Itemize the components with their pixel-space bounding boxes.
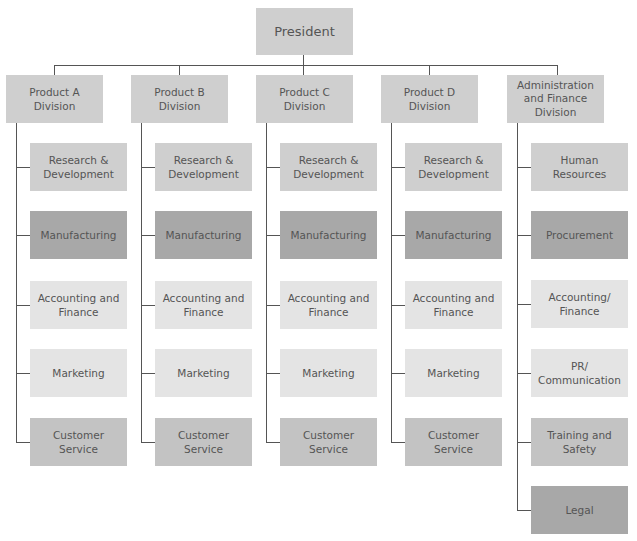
department-box: Legal <box>531 486 628 534</box>
department-box: Accounting and Finance <box>405 281 502 329</box>
division-label: Product A Division <box>29 85 79 113</box>
department-label: Customer Service <box>283 428 374 456</box>
department-label: Accounting and Finance <box>288 291 370 319</box>
department-box: Human Resources <box>531 143 628 191</box>
department-box: Training and Safety <box>531 418 628 466</box>
department-box: Manufacturing <box>280 211 377 259</box>
department-box: Accounting and Finance <box>30 281 127 329</box>
department-box: Research & Development <box>155 143 252 191</box>
division-trunk-line <box>391 123 392 442</box>
department-box: Marketing <box>405 349 502 397</box>
department-box: Manufacturing <box>405 211 502 259</box>
department-box: Accounting and Finance <box>280 281 377 329</box>
department-label: Manufacturing <box>165 228 241 242</box>
division-trunk-line <box>266 123 267 442</box>
division-label: Product D Division <box>404 85 455 113</box>
president-box: President <box>256 8 353 55</box>
department-box: Research & Development <box>280 143 377 191</box>
division-trunk-line <box>141 123 142 442</box>
department-label: Training and Safety <box>547 428 612 456</box>
department-box: Customer Service <box>405 418 502 466</box>
division-trunk-line <box>16 123 17 442</box>
division-box: Product C Division <box>256 75 353 123</box>
department-box: Research & Development <box>405 143 502 191</box>
department-box: Marketing <box>280 349 377 397</box>
department-label: Accounting and Finance <box>163 291 245 319</box>
division-box: Product D Division <box>381 75 478 123</box>
division-label: Product C Division <box>279 85 330 113</box>
department-box: Research & Development <box>30 143 127 191</box>
department-label: Research & Development <box>418 153 489 181</box>
department-label: Marketing <box>52 366 104 380</box>
department-box: Accounting and Finance <box>155 281 252 329</box>
department-label: Customer Service <box>33 428 124 456</box>
department-box: Procurement <box>531 211 628 259</box>
department-label: Customer Service <box>408 428 499 456</box>
department-box: Customer Service <box>280 418 377 466</box>
department-label: Research & Development <box>168 153 239 181</box>
division-label: Product B Division <box>154 85 204 113</box>
president-stem <box>303 55 304 65</box>
department-label: Research & Development <box>43 153 114 181</box>
department-label: Accounting and Finance <box>413 291 495 319</box>
department-box: Customer Service <box>30 418 127 466</box>
division-d-drop <box>429 65 430 75</box>
department-box: Customer Service <box>155 418 252 466</box>
department-label: Marketing <box>302 366 354 380</box>
division-trunk-line <box>517 123 518 510</box>
department-box: Manufacturing <box>30 211 127 259</box>
department-label: Marketing <box>177 366 229 380</box>
department-label: Accounting/ Finance <box>548 290 610 318</box>
department-box: Marketing <box>30 349 127 397</box>
department-label: Manufacturing <box>290 228 366 242</box>
division-bus <box>54 65 558 66</box>
department-box: Accounting/ Finance <box>531 280 628 328</box>
department-label: PR/ Communication <box>538 359 621 387</box>
department-label: Human Resources <box>553 153 607 181</box>
department-label: Procurement <box>546 228 613 242</box>
division-box: Product B Division <box>131 75 228 123</box>
department-label: Accounting and Finance <box>38 291 120 319</box>
division-admin-drop <box>557 65 558 75</box>
division-c-drop <box>303 65 304 75</box>
department-label: Research & Development <box>293 153 364 181</box>
department-label: Manufacturing <box>415 228 491 242</box>
division-box: Administration and Finance Division <box>507 75 604 123</box>
department-label: Customer Service <box>158 428 249 456</box>
president-label: President <box>274 23 335 41</box>
department-box: PR/ Communication <box>531 349 628 397</box>
department-label: Legal <box>565 503 593 517</box>
department-box: Manufacturing <box>155 211 252 259</box>
department-label: Manufacturing <box>40 228 116 242</box>
department-label: Marketing <box>427 366 479 380</box>
division-b-drop <box>179 65 180 75</box>
division-box: Product A Division <box>6 75 103 123</box>
division-label: Administration and Finance Division <box>517 79 594 118</box>
department-box: Marketing <box>155 349 252 397</box>
division-a-drop <box>54 65 55 75</box>
